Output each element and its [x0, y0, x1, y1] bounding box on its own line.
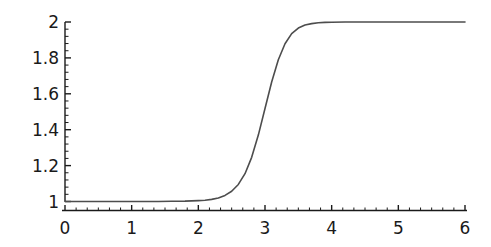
series-layer	[65, 22, 465, 202]
plot-area	[0, 0, 491, 247]
x-axis-tick-label: 4	[326, 220, 337, 237]
y-axis-tick-label: 1.2	[32, 157, 59, 174]
data-series-line-0	[65, 22, 465, 202]
x-axis-tick-label: 1	[126, 220, 137, 237]
y-axis-tick-label: 1	[48, 193, 59, 210]
x-axis-tick-label: 6	[460, 220, 471, 237]
x-axis-tick-label: 2	[193, 220, 204, 237]
x-axis-tick-label: 5	[393, 220, 404, 237]
x-axis-tick-label: 0	[60, 220, 71, 237]
y-axis-tick-label: 1.6	[32, 85, 59, 102]
y-axis-tick-label: 1.8	[32, 49, 59, 66]
y-axis-tick-label: 2	[48, 14, 59, 31]
y-axis-tick-label: 1.4	[32, 121, 59, 138]
x-axis-tick-label: 3	[260, 220, 271, 237]
axis-layer	[62, 22, 467, 211]
chart-container: 11.21.41.61.82 0123456	[0, 0, 491, 247]
